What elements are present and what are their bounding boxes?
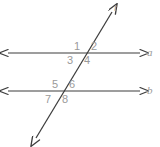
- angle-label-4: 4: [84, 55, 90, 66]
- line-label-a: a: [147, 47, 153, 58]
- transversal-line-t: [36, 12, 112, 138]
- angle-label-5: 5: [52, 79, 58, 90]
- line-label-b: b: [147, 85, 153, 96]
- geometry-figure: 1 2 3 4 5 6 7 8 a b t: [0, 0, 160, 147]
- angle-label-6: 6: [69, 79, 75, 90]
- angle-label-1: 1: [74, 41, 80, 52]
- geometry-canvas: [0, 0, 160, 147]
- angle-label-3: 3: [67, 55, 73, 66]
- angle-label-7: 7: [45, 94, 51, 105]
- line-label-t: t: [114, 2, 117, 13]
- angle-label-2: 2: [91, 41, 97, 52]
- angle-label-8: 8: [62, 94, 68, 105]
